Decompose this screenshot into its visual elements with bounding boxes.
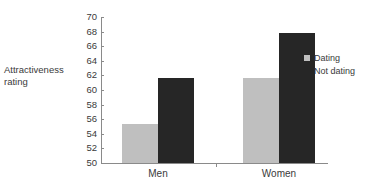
y-axis-tick-label: 50 <box>73 157 97 169</box>
x-axis-tick-mark <box>216 163 217 167</box>
y-axis-tick-label: 62 <box>73 69 97 81</box>
y-axis-tick-label: 60 <box>73 84 97 96</box>
legend-item-label: Dating <box>314 52 340 64</box>
y-axis-tick-mark <box>101 105 104 106</box>
y-axis-tick-mark <box>101 119 104 120</box>
y-axis-tick-label: 54 <box>73 128 97 140</box>
y-axis-tick-labels: 7068666462605856545250 <box>73 17 97 163</box>
bar-women-dating <box>243 78 279 163</box>
y-axis-tick-mark <box>101 17 104 18</box>
y-axis-tick-label: 66 <box>73 40 97 52</box>
y-axis-tick-mark <box>101 90 104 91</box>
legend-item-dating[interactable]: Dating <box>304 52 376 64</box>
y-axis-tick-label: 58 <box>73 99 97 111</box>
y-axis-tick-label: 56 <box>73 113 97 125</box>
y-axis-tick-mark <box>101 61 104 62</box>
y-axis-tick-mark <box>101 46 104 47</box>
y-axis-tick-label: 70 <box>73 11 97 23</box>
dating-swatch-icon <box>304 55 310 61</box>
legend-item-label: Not dating <box>314 65 355 77</box>
y-axis-tick-mark <box>101 148 104 149</box>
bar-men-not-dating <box>158 78 194 163</box>
y-axis-tick-mark <box>101 32 104 33</box>
y-axis-tick-mark <box>101 163 104 164</box>
bar-men-dating <box>122 124 158 163</box>
y-axis-tick-mark <box>101 134 104 135</box>
x-axis-label-men: Men <box>118 167 198 181</box>
x-axis-label-women: Women <box>239 167 319 181</box>
not-dating-swatch-icon <box>304 68 310 74</box>
bar-chart: Attractiveness rating 706866646260585654… <box>0 0 376 190</box>
y-axis-tick-mark <box>101 75 104 76</box>
y-axis-tick-label: 68 <box>73 26 97 38</box>
plot-area <box>101 17 316 163</box>
chart-legend: DatingNot dating <box>304 52 376 78</box>
y-axis-title: Attractiveness rating <box>4 64 78 88</box>
y-axis-tick-label: 64 <box>73 55 97 67</box>
legend-item-not-dating[interactable]: Not dating <box>304 65 376 77</box>
x-axis-line <box>101 163 328 164</box>
y-axis-tick-label: 52 <box>73 142 97 154</box>
